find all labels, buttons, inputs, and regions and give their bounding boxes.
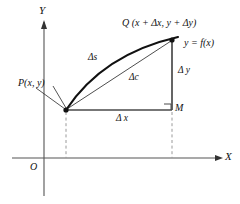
chord-length-label: Δc (129, 73, 139, 83)
delta-y-label: Δ y (178, 66, 190, 76)
point-q-label: Q (x + Δx, y + Δy) (122, 18, 196, 28)
curve-equation-label: y = f(x) (184, 38, 214, 48)
x-axis-label: X (225, 151, 232, 162)
point-m-label: M (175, 103, 183, 113)
point-p-dot (63, 107, 68, 112)
figure-canvas: Y X O P(x, y) Q (x + Δx, y + Δy) M y = f… (0, 0, 240, 204)
chord-segment (67, 41, 171, 109)
origin-label: O (30, 162, 37, 172)
diagram-svg (0, 0, 240, 204)
point-p-label: P(x, y) (18, 78, 45, 88)
point-q-dot (169, 37, 174, 42)
arc-length-label: Δs (88, 53, 97, 63)
delta-x-label: Δ x (116, 114, 128, 124)
y-axis-label: Y (39, 5, 45, 16)
y-axis-arrowhead (41, 20, 47, 29)
x-axis-arrowhead (215, 155, 223, 161)
right-angle-marker (164, 104, 171, 110)
